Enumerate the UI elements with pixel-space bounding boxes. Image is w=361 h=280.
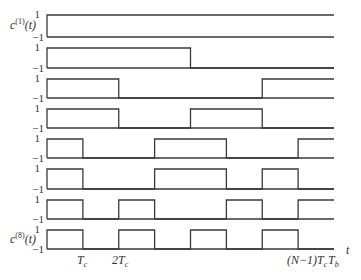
signal-label-8: c(8)(t) (10, 231, 36, 246)
level-high-label: 1 (35, 41, 41, 53)
time-tick-label-3: (N−1)Tc (287, 253, 328, 269)
waveform-row-7 (47, 200, 334, 219)
level-high-label: 1 (35, 72, 41, 84)
time-tick-label-1: Tc (77, 253, 88, 269)
signal-label-1: c(1)(t) (10, 17, 36, 32)
waveform-row-3 (47, 79, 334, 98)
waveform-rows (47, 15, 334, 249)
level-high-label: 1 (35, 162, 41, 174)
waveform-row-8 (47, 230, 334, 249)
time-axis-label: t (346, 243, 350, 257)
waveform-row-6 (47, 169, 334, 189)
level-high-label: 1 (35, 132, 41, 144)
time-tick-label-2: 2Tc (112, 253, 129, 269)
level-high-label: 1 (35, 102, 41, 114)
time-axis: Tc2Tc(N−1)TcTbt (77, 243, 350, 269)
waveform-row-1 (47, 15, 334, 37)
chip-waveform-diagram: 1−11−11−11−11−11−11−11−1 c(1)(t)c(8)(t) … (0, 0, 361, 280)
waveform-row-5 (47, 139, 334, 158)
level-high-label: 1 (35, 193, 41, 205)
time-tick-label-4: Tb (328, 253, 339, 269)
waveform-row-4 (47, 109, 334, 128)
waveform-row-2 (47, 48, 334, 68)
level-labels: 1−11−11−11−11−11−11−11−1 (32, 8, 44, 255)
